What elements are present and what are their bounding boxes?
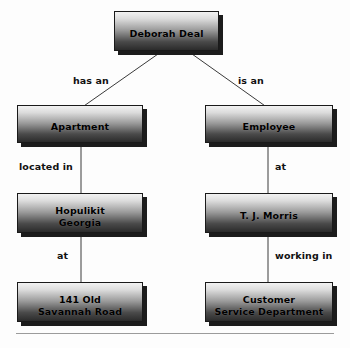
node-label-line-2: Georgia bbox=[59, 217, 102, 228]
edge-label-located-in: located in bbox=[19, 161, 73, 172]
node-label: Apartment bbox=[21, 121, 139, 133]
node-deborah-deal[interactable]: Deborah Deal bbox=[114, 11, 219, 51]
edge-label-at-employee: at bbox=[275, 161, 286, 172]
node-address[interactable]: 141 Old Savannah Road bbox=[17, 282, 143, 322]
node-customer-service-department[interactable]: Customer Service Department bbox=[205, 282, 333, 322]
node-label: Deborah Deal bbox=[118, 28, 215, 40]
node-label-line-2: Service Department bbox=[214, 306, 323, 317]
node-apartment[interactable]: Apartment bbox=[17, 105, 143, 143]
edge-label-has-an: has an bbox=[73, 75, 109, 86]
node-label: Hopulikit Georgia bbox=[21, 205, 139, 229]
node-employee[interactable]: Employee bbox=[205, 105, 333, 143]
node-label: Employee bbox=[209, 121, 329, 133]
diagram-canvas: Deborah Deal Apartment Employee Hopuliki… bbox=[0, 0, 350, 348]
node-label-line-1: 141 Old bbox=[59, 294, 101, 305]
node-label-line-1: Customer bbox=[243, 294, 295, 305]
node-label: T. J. Morris bbox=[209, 210, 329, 222]
node-label: 141 Old Savannah Road bbox=[21, 294, 139, 318]
node-label: Customer Service Department bbox=[209, 294, 329, 318]
node-tj-morris[interactable]: T. J. Morris bbox=[205, 193, 333, 233]
node-label-line-2: Savannah Road bbox=[38, 306, 122, 317]
node-hopulikit-georgia[interactable]: Hopulikit Georgia bbox=[17, 193, 143, 233]
edge-label-is-an: is an bbox=[238, 75, 264, 86]
bottom-divider bbox=[16, 333, 334, 334]
edge-label-working-in: working in bbox=[275, 250, 332, 261]
edge-label-at-city: at bbox=[57, 250, 68, 261]
node-label-line-1: Hopulikit bbox=[55, 205, 105, 216]
